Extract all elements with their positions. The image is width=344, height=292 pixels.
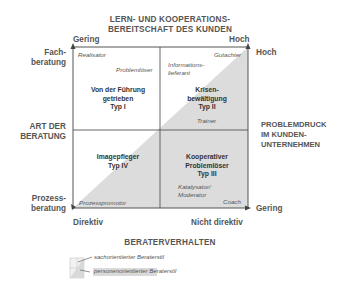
bottom-axis-title: BERATERVERHALTEN (60, 238, 280, 248)
typ2-line2: bewältigung (170, 95, 244, 104)
role-informationslieferant: Informations- lieferant (168, 61, 204, 76)
typ3-line2: Problemlöser (170, 162, 244, 171)
role-gutachter: Gutachter (214, 51, 241, 59)
katalysator-line2: Moderator (178, 191, 211, 199)
role-realisator: Realisator (78, 51, 106, 59)
right-axis-top-label: Hoch (256, 48, 276, 58)
legend-label-sachorientiert: sachorientierter Beraterstil (94, 254, 164, 262)
shaded-region (73, 47, 248, 208)
title-line1: LERN- UND KOOPERATIONS- (60, 15, 280, 25)
typ1-line3: Typ I (80, 103, 156, 112)
prozessberatung-line1: Prozess- (0, 194, 66, 204)
right-axis-title: PROBLEMDRUCK IM KUNDEN- UNTERNEHMEN (261, 120, 326, 150)
left-axis-title: ART DER BERATUNG (0, 122, 66, 142)
infolieferant-line2: lieferant (168, 69, 204, 77)
right-axis-title-line1: PROBLEMDRUCK (261, 120, 326, 130)
typ2-line1: Krisen- (170, 86, 244, 95)
typ2-line3: Typ II (170, 103, 244, 112)
prozessberatung-line2: beratung (0, 204, 66, 214)
quadrant-typ-4: Imagepfleger Typ IV (80, 153, 156, 170)
legend-label-personenorientiert: personenorientierter Beraterstil (94, 268, 176, 276)
role-problemloeser: Problemlöser (116, 66, 152, 74)
title-line2: BEREITSCHAFT DES KUNDEN (60, 25, 280, 35)
left-axis-title-line1: ART DER (0, 122, 66, 132)
fachberatung-line2: beratung (0, 58, 66, 68)
typ4-line2: Typ IV (80, 162, 156, 171)
katalysator-line1: Katalysator/ (178, 183, 211, 191)
bottom-axis-left-label: Direktiv (73, 218, 103, 228)
right-axis-title-line3: UNTERNEHMEN (261, 140, 326, 150)
role-prozesspromotor: Prozesspromotor (79, 199, 126, 207)
typ3-line3: Typ III (170, 170, 244, 179)
right-axis-bottom-label: Gering (256, 204, 282, 214)
typ3-line1: Kooperativer (170, 153, 244, 162)
left-axis-title-line2: BERATUNG (0, 132, 66, 142)
role-trainer: Trainer (197, 117, 216, 125)
typ1-line2: getrieben (80, 95, 156, 104)
top-axis-left-label: Gering (73, 35, 99, 45)
bottom-axis-right-label: Nicht direktiv (191, 218, 243, 228)
quadrant-typ-1: Von der Führung getrieben Typ I (80, 86, 156, 112)
left-axis-bottom-label: Prozess- beratung (0, 194, 66, 214)
left-axis-top-label: Fach- beratung (0, 48, 66, 68)
typ1-line1: Von der Führung (80, 86, 156, 95)
typ4-line1: Imagepfleger (80, 153, 156, 162)
top-axis-right-label: Hoch (229, 35, 249, 45)
infolieferant-line1: Informations- (168, 61, 204, 69)
quadrant-typ-2: Krisen- bewältigung Typ II (170, 86, 244, 112)
role-katalysator-moderator: Katalysator/ Moderator (178, 183, 211, 198)
quadrant-typ-3: Kooperativer Problemlöser Typ III (170, 153, 244, 179)
legend-icon (70, 257, 92, 278)
fachberatung-line1: Fach- (0, 48, 66, 58)
role-coach: Coach (223, 198, 241, 206)
right-axis-title-line2: IM KUNDEN- (261, 130, 326, 140)
chart-title: LERN- UND KOOPERATIONS- BEREITSCHAFT DES… (60, 15, 280, 35)
